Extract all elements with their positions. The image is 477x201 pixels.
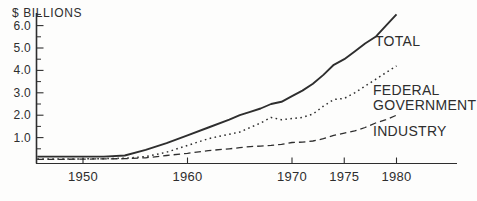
y-axis-title: $ BILLIONS — [12, 6, 82, 20]
y-tick-label: 4.0 — [13, 63, 31, 77]
x-tick-label: 1980 — [381, 169, 411, 184]
y-tick-label: 6.0 — [13, 19, 31, 33]
x-tick-label: 1970 — [277, 169, 307, 184]
line-chart: 1.02.03.04.05.06.019501960197019751980 $… — [0, 0, 477, 201]
chart-canvas: 1.02.03.04.05.06.019501960197019751980 $… — [0, 0, 477, 201]
x-tick-label: 1950 — [68, 169, 98, 184]
y-tick-label: 3.0 — [13, 86, 31, 100]
y-tick-label: 2.0 — [13, 108, 31, 122]
industry-series-label: INDUSTRY — [373, 123, 447, 139]
axis-ticks — [37, 14, 397, 163]
industry-line — [37, 115, 396, 159]
x-tick-label: 1960 — [172, 169, 202, 184]
y-tick-label: 1.0 — [13, 131, 31, 145]
federal-series-label-line2: GOVERNMENT — [373, 97, 476, 113]
x-tick-label: 1975 — [329, 169, 359, 184]
total-line — [37, 14, 396, 156]
plot-lines — [37, 14, 396, 159]
federal-government-line — [37, 66, 396, 159]
federal-series-label-line1: FEDERAL — [373, 82, 440, 98]
total-series-label: TOTAL — [375, 33, 420, 49]
y-tick-label: 5.0 — [13, 41, 31, 55]
